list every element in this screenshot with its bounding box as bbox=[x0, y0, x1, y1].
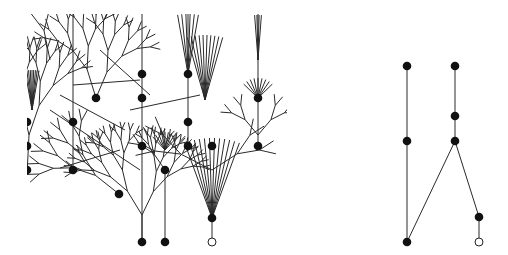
edge bbox=[250, 119, 253, 136]
edge bbox=[407, 141, 455, 242]
edge bbox=[39, 86, 53, 106]
filled-node bbox=[208, 214, 217, 223]
edge bbox=[87, 46, 88, 69]
graph-nodes bbox=[403, 62, 484, 247]
edge bbox=[88, 29, 95, 46]
edge bbox=[96, 5, 100, 15]
edge bbox=[83, 14, 84, 28]
edge bbox=[116, 131, 121, 140]
filled-node bbox=[138, 70, 147, 79]
edge bbox=[128, 27, 129, 40]
edge bbox=[212, 154, 237, 170]
edge bbox=[68, 19, 69, 33]
edge bbox=[22, 80, 23, 104]
filled-node bbox=[403, 137, 412, 146]
edge bbox=[15, 5, 30, 13]
edge bbox=[39, 164, 54, 169]
filled-node bbox=[69, 118, 78, 127]
filled-node bbox=[451, 137, 460, 146]
filled-node bbox=[451, 62, 460, 71]
edge bbox=[241, 94, 242, 105]
edge bbox=[212, 143, 239, 218]
edge bbox=[155, 117, 163, 135]
edge bbox=[59, 53, 60, 68]
edge bbox=[81, 110, 87, 121]
edge bbox=[47, 49, 48, 64]
edge bbox=[233, 97, 240, 106]
edge bbox=[10, 83, 22, 104]
edge bbox=[130, 123, 133, 130]
edge bbox=[108, 35, 115, 51]
edge bbox=[9, 38, 12, 49]
edge bbox=[39, 168, 53, 174]
edge bbox=[73, 51, 87, 70]
edge bbox=[74, 17, 83, 28]
filled-node bbox=[184, 142, 193, 151]
edge bbox=[101, 11, 104, 21]
edge bbox=[84, 4, 88, 14]
edge bbox=[115, 25, 124, 35]
filled-node bbox=[23, 142, 32, 151]
edge bbox=[212, 140, 230, 218]
edge bbox=[59, 56, 67, 68]
filled-node bbox=[138, 142, 147, 151]
edge bbox=[128, 31, 137, 41]
edge bbox=[193, 166, 203, 167]
filled-node bbox=[161, 166, 170, 175]
edge bbox=[274, 94, 275, 105]
edge bbox=[258, 120, 271, 135]
edge bbox=[121, 130, 122, 140]
edge bbox=[150, 42, 159, 47]
tree-edges bbox=[0, 0, 296, 242]
edge bbox=[127, 191, 142, 215]
edge bbox=[29, 48, 30, 63]
filled-node bbox=[475, 213, 484, 222]
edge bbox=[115, 21, 116, 34]
edge bbox=[194, 140, 212, 218]
skeleton-graph bbox=[403, 62, 484, 247]
edge bbox=[30, 37, 34, 48]
edge bbox=[73, 80, 140, 85]
edge bbox=[284, 112, 295, 113]
edge bbox=[275, 97, 282, 106]
edge bbox=[111, 132, 112, 142]
edge bbox=[4, 39, 7, 50]
edge bbox=[155, 151, 181, 154]
edge bbox=[19, 62, 23, 81]
edge bbox=[68, 9, 72, 19]
edge bbox=[110, 124, 112, 132]
edge bbox=[225, 104, 232, 113]
edge bbox=[39, 81, 40, 105]
edge bbox=[100, 132, 103, 140]
filled-node bbox=[138, 238, 147, 247]
edge bbox=[237, 150, 259, 154]
edge bbox=[12, 49, 19, 62]
edge bbox=[30, 13, 44, 31]
filled-node bbox=[254, 142, 263, 151]
edge bbox=[34, 32, 43, 38]
edge bbox=[104, 11, 108, 21]
edge bbox=[40, 63, 46, 81]
edge bbox=[50, 0, 61, 9]
edge bbox=[221, 112, 232, 113]
edge bbox=[107, 50, 108, 72]
edge bbox=[284, 104, 291, 113]
filled-node bbox=[184, 118, 193, 127]
edge bbox=[142, 192, 153, 215]
edge bbox=[30, 174, 39, 182]
edge bbox=[20, 36, 24, 47]
edge bbox=[112, 12, 115, 22]
edge bbox=[19, 47, 20, 62]
edge bbox=[154, 156, 156, 172]
edge bbox=[8, 0, 16, 5]
edge bbox=[59, 22, 68, 33]
edge bbox=[150, 47, 160, 49]
dense-branching-tree bbox=[0, 0, 296, 246]
edge bbox=[0, 70, 10, 83]
edge bbox=[17, 36, 20, 47]
edge bbox=[122, 153, 124, 170]
edge bbox=[136, 151, 155, 155]
filled-node bbox=[23, 166, 32, 175]
open-node bbox=[208, 238, 216, 246]
filled-node bbox=[138, 94, 147, 103]
